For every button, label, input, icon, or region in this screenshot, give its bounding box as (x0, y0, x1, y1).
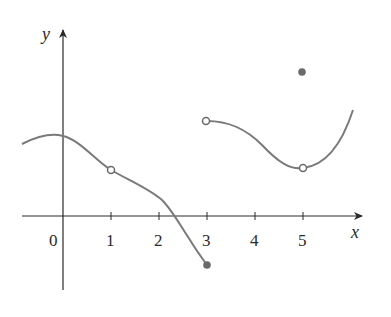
y-axis-label: y (40, 24, 50, 44)
tick-label-1: 1 (106, 231, 115, 250)
open-point-x5 (300, 165, 307, 172)
filled-point-x3-lower (203, 261, 211, 269)
filled-point-x5-isolated (298, 68, 306, 76)
tick-label-4: 4 (250, 231, 259, 250)
tick-label-2: 2 (154, 231, 163, 250)
curve-right-piece (207, 110, 353, 168)
open-point-x1 (108, 167, 115, 174)
function-graph: 0 1 2 3 4 5 x y (0, 0, 391, 317)
graph-canvas: 0 1 2 3 4 5 x y (0, 0, 391, 317)
x-axis-label: x (350, 222, 359, 242)
open-point-x3-upper (203, 118, 210, 125)
tick-label-3: 3 (202, 231, 211, 250)
tick-label-5: 5 (298, 231, 307, 250)
origin-label: 0 (49, 231, 58, 250)
